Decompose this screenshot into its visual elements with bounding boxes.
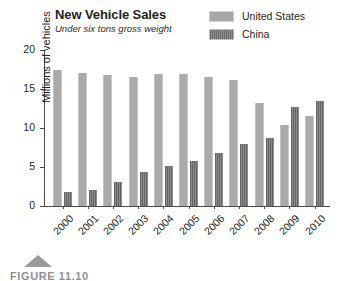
x-axis-tick-label: 2004: [146, 212, 176, 242]
x-axis-tick: [163, 206, 164, 209]
bar-group: [229, 50, 249, 206]
bar-united-states-2004: [154, 74, 163, 206]
legend-label-china: China: [242, 28, 269, 40]
y-axis-tick-label: 10: [9, 121, 35, 134]
y-axis-tick: 0: [40, 206, 44, 207]
bar-united-states-2000: [53, 70, 62, 206]
bar-china-2007: [240, 144, 248, 206]
y-axis-tick: 15: [40, 89, 44, 90]
chart-subtitle: Under six tons gross weight: [55, 23, 172, 34]
chart-title: New Vehicle Sales: [55, 7, 166, 22]
bar-united-states-2003: [129, 77, 138, 206]
bar-united-states-2005: [179, 74, 188, 206]
x-axis-tick: [63, 206, 64, 209]
bar-united-states-2007: [229, 80, 238, 206]
y-axis-tick: 5: [40, 167, 44, 168]
x-axis-tick-label: 2007: [222, 212, 252, 242]
bar-group: [78, 50, 98, 206]
bar-china-2000: [64, 192, 72, 206]
bar-united-states-2002: [103, 75, 112, 206]
bar-china-2005: [190, 161, 198, 206]
legend-item-china: China: [209, 26, 337, 42]
bar-china-2004: [165, 166, 173, 206]
figure-root: New Vehicle Sales Under six tons gross w…: [0, 0, 338, 281]
bar-china-2009: [291, 107, 299, 206]
x-axis-tick-label: 2005: [171, 212, 201, 242]
x-axis-tick-label: 2000: [45, 212, 75, 242]
x-axis-tick: [289, 206, 290, 209]
x-axis-tick-label: 2010: [297, 212, 327, 242]
y-axis-tick-label: 20: [9, 43, 35, 56]
y-axis-tick: 20: [40, 50, 44, 51]
bar-united-states-2006: [204, 77, 213, 206]
plot-area: Millions of vehicles 05101520 2000200120…: [44, 50, 330, 206]
x-axis-tick: [214, 206, 215, 209]
x-axis-tick-label: 2009: [272, 212, 302, 242]
bar-united-states-2010: [305, 116, 314, 206]
bar-group: [179, 50, 199, 206]
bar-group: [154, 50, 174, 206]
x-axis-tick: [264, 206, 265, 209]
bar-group: [255, 50, 275, 206]
x-axis-tick: [189, 206, 190, 209]
bar-group: [129, 50, 149, 206]
bar-group: [305, 50, 325, 206]
x-axis-tick: [138, 206, 139, 209]
y-axis-tick-label: 0: [9, 199, 35, 212]
bar-united-states-2001: [78, 73, 87, 206]
legend-swatch-united-states: [209, 11, 234, 22]
figure-caption: FIGURE 11.10: [10, 255, 330, 281]
bar-china-2008: [266, 138, 274, 206]
legend-swatch-china: [209, 29, 234, 40]
triangle-icon: [24, 255, 52, 267]
bar-united-states-2009: [280, 125, 289, 206]
x-axis-tick: [113, 206, 114, 209]
x-axis-tick-label: 2008: [247, 212, 277, 242]
figure-caption-text: FIGURE 11.10: [10, 270, 89, 281]
bar-china-2010: [316, 101, 324, 206]
y-axis-title: Millions of vehicles: [40, 0, 52, 122]
legend-label-united-states: United States: [242, 10, 305, 22]
bar-united-states-2008: [255, 103, 264, 206]
y-axis-tick-label: 5: [9, 160, 35, 173]
x-axis-tick-label: 2001: [70, 212, 100, 242]
x-axis-tick-label: 2006: [196, 212, 226, 242]
bar-china-2002: [114, 182, 122, 206]
x-axis-tick-label: 2003: [121, 212, 151, 242]
x-axis-tick: [239, 206, 240, 209]
y-axis-tick-label: 15: [9, 82, 35, 95]
bar-group: [204, 50, 224, 206]
y-axis-tick: 10: [40, 128, 44, 129]
bar-group: [53, 50, 73, 206]
legend-item-united-states: United States: [209, 8, 337, 24]
x-axis-tick-label: 2002: [96, 212, 126, 242]
bar-group: [280, 50, 300, 206]
x-axis-tick: [315, 206, 316, 209]
chart-legend: United States China: [209, 8, 337, 44]
bar-china-2003: [140, 172, 148, 206]
x-axis-tick: [88, 206, 89, 209]
bar-china-2001: [89, 190, 97, 206]
bar-group: [103, 50, 123, 206]
bar-china-2006: [215, 153, 223, 206]
